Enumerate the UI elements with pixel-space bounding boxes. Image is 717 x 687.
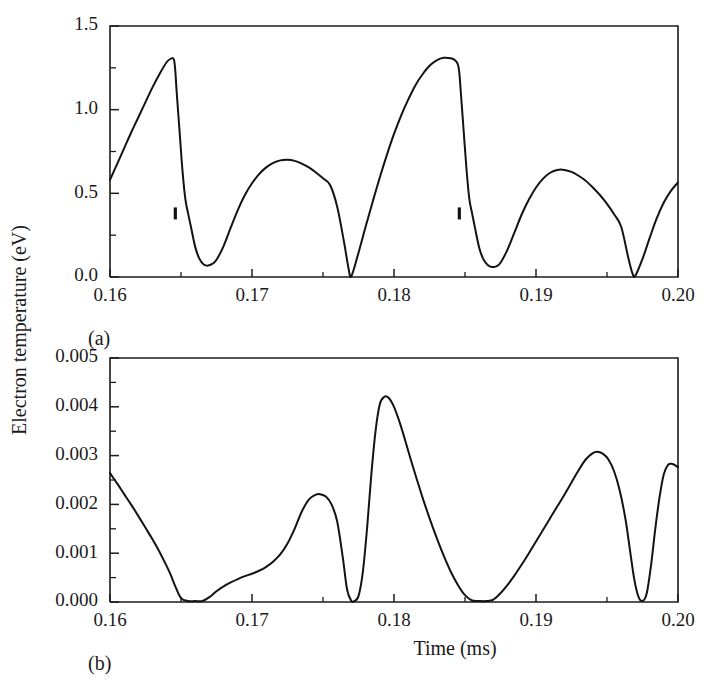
figure-root: 0.160.170.180.190.200.00.51.01.5 (a) 0.1… — [0, 0, 717, 687]
y-tick-label: 1.5 — [74, 13, 98, 34]
y-tick-label: 0.005 — [55, 345, 98, 366]
x-axis-title: Time (ms) — [413, 637, 496, 660]
panel-b-label: (b) — [88, 652, 111, 675]
x-tick-label: 0.20 — [661, 284, 694, 305]
x-tick-label: 0.16 — [93, 284, 126, 305]
x-tick-label: 0.19 — [519, 284, 552, 305]
panel-a-plot-background — [110, 26, 678, 277]
x-tick-label: 0.17 — [235, 609, 268, 630]
y-tick-label: 0.004 — [55, 394, 98, 415]
y-tick-label: 0.0 — [74, 264, 98, 285]
panel-a: 0.160.170.180.190.200.00.51.01.5 (a) — [74, 13, 694, 350]
y-tick-label: 0.002 — [55, 492, 98, 513]
x-tick-label: 0.18 — [377, 609, 410, 630]
y-axis-title: Electron temperature (eV) — [8, 225, 31, 435]
figure-canvas: 0.160.170.180.190.200.00.51.01.5 (a) 0.1… — [0, 0, 717, 687]
y-tick-label: 0.5 — [74, 181, 98, 202]
x-tick-label: 0.16 — [93, 609, 126, 630]
x-tick-label: 0.17 — [235, 284, 268, 305]
y-tick-label: 0.000 — [55, 589, 98, 610]
y-tick-label: 0.001 — [55, 541, 98, 562]
y-tick-label: 0.003 — [55, 443, 98, 464]
x-tick-label: 0.19 — [519, 609, 552, 630]
y-tick-label: 1.0 — [74, 97, 98, 118]
panel-b-plot-background — [110, 358, 678, 602]
x-tick-label: 0.18 — [377, 284, 410, 305]
panel-b: 0.160.170.180.190.200.0000.0010.0020.003… — [55, 345, 694, 675]
x-tick-label: 0.20 — [661, 609, 694, 630]
